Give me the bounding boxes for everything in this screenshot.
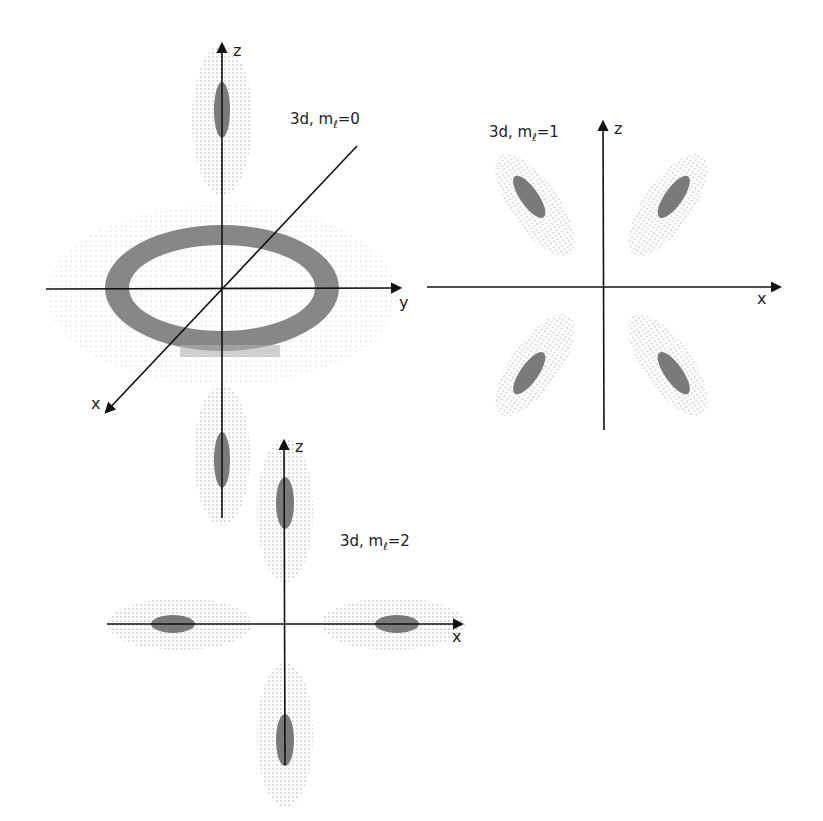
lobe-ll xyxy=(481,302,589,428)
panel-3d-ml1: z x 3d, mℓ=1 xyxy=(427,119,780,430)
x-axis-label: x xyxy=(452,627,461,646)
z-axis-label: z xyxy=(614,119,622,138)
x-axis-label: x xyxy=(757,289,766,308)
panel-3d-ml2: z x 3d, mℓ=2 xyxy=(107,437,465,807)
z-axis-label: z xyxy=(233,41,241,60)
x-axis-label: x xyxy=(91,394,100,413)
y-axis-label: y xyxy=(399,293,408,312)
panel-label: 3d, mℓ=0 xyxy=(290,110,360,131)
lobe-lr xyxy=(614,302,722,428)
panel-label: 3d, mℓ=1 xyxy=(489,123,559,144)
z-axis xyxy=(603,122,604,430)
lobe-ul xyxy=(481,142,589,268)
panel-3d-ml0: z y x 3d, mℓ=0 xyxy=(46,41,408,525)
z-axis xyxy=(284,441,285,765)
panel-label: 3d, mℓ=2 xyxy=(340,532,410,553)
z-axis-label: z xyxy=(295,437,303,456)
torus-shadow xyxy=(180,345,280,357)
lobe-ur xyxy=(614,142,722,268)
orbital-diagram: z y x 3d, mℓ=0 z x xyxy=(0,0,823,821)
